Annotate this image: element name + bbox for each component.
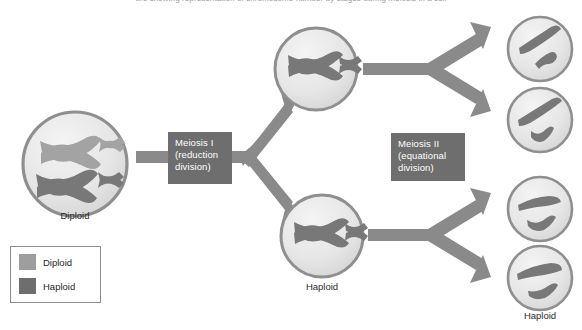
cell-membrane-parent: [23, 112, 127, 216]
arrow-stub-bottom-cell: [368, 229, 431, 241]
label-parent-cell: Diploid: [43, 210, 107, 221]
legend-swatch-haploid: [19, 278, 36, 294]
arrow-meiosis1-lower-shaft: [241, 148, 293, 210]
arrow-group-meiosis2-top: [363, 22, 491, 117]
legend-label-haploid: Haploid: [43, 281, 75, 292]
arrow-stub-top-cell: [363, 63, 431, 75]
legend-item-haploid: Haploid: [19, 278, 75, 294]
label-daughter-bottom: Haploid: [290, 281, 354, 292]
cell-parent-diploid: [23, 112, 127, 216]
legend-box: Diploid Haploid: [10, 246, 101, 303]
arrow-m2-bot-lower-shaft: [428, 229, 483, 270]
meiosis-1-line1: Meiosis I: [175, 137, 226, 149]
process-box-meiosis-2: Meiosis II (equational division): [391, 133, 465, 181]
meiosis-2-line3: division): [398, 162, 459, 174]
cell-daughter-top-haploid: [275, 28, 362, 110]
cell-membrane-gamete-3: [508, 177, 572, 241]
legend-swatch-diploid: [19, 254, 36, 270]
meiosis-1-line2: (reduction: [175, 149, 226, 161]
arrow-stub-parent-to-meiosis1: [136, 151, 170, 163]
meiosis-1-line3: division): [175, 161, 226, 173]
cell-daughter-bottom-haploid: [281, 195, 368, 277]
cell-membrane-gamete-1: [508, 17, 572, 81]
cell-membrane-gamete-2: [508, 88, 572, 152]
legend-item-diploid: Diploid: [19, 254, 72, 270]
cell-gamete-4: [508, 246, 572, 310]
legend-label-diploid: Diploid: [43, 257, 72, 268]
label-gamete-4: Haploid: [508, 310, 572, 321]
process-box-meiosis-1: Meiosis I (reduction division): [168, 132, 232, 184]
cell-gamete-1: [508, 17, 572, 81]
meiosis-2-line2: (equational: [398, 150, 459, 162]
cell-gamete-2: [508, 88, 572, 152]
cell-gamete-3: [508, 177, 572, 241]
arrow-m2-top-lower-shaft: [428, 63, 483, 104]
meiosis-diagram: ure showing representation of chromosome…: [0, 0, 582, 330]
meiosis-2-line1: Meiosis II: [398, 138, 459, 150]
cell-membrane-gamete-4: [508, 246, 572, 310]
arrow-group-meiosis2-bottom: [368, 188, 491, 283]
